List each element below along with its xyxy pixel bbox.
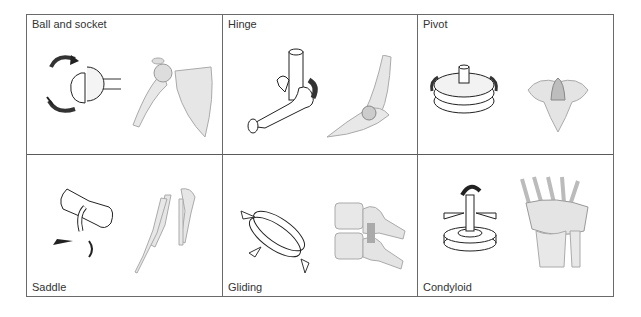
cell-pivot: Pivot: [418, 15, 613, 155]
joint-label: Ball and socket: [32, 18, 107, 30]
gliding-schematic-icon: [231, 195, 321, 275]
atlas-vertebra-anatomy-icon: [518, 60, 598, 140]
saddle-schematic-icon: [45, 185, 125, 265]
joint-label: Saddle: [32, 281, 66, 293]
vertebrae-anatomy-icon: [327, 195, 412, 280]
hand-bones-anatomy-icon: [123, 185, 213, 280]
cell-condyloid: Condyloid: [418, 155, 613, 296]
cell-hinge: Hinge: [223, 15, 418, 155]
joint-label: Hinge: [228, 18, 257, 30]
cell-saddle: Saddle: [27, 155, 223, 296]
ball-socket-schematic-icon: [41, 45, 121, 125]
condyloid-schematic-icon: [432, 177, 512, 257]
pivot-schematic-icon: [426, 53, 506, 123]
elbow-anatomy-icon: [323, 55, 413, 140]
joint-label: Pivot: [423, 18, 447, 30]
cell-ball-and-socket: Ball and socket: [27, 15, 223, 155]
joint-label: Gliding: [228, 281, 262, 293]
joint-label: Condyloid: [423, 281, 472, 293]
joint-types-grid: Ball and socket Hinge: [26, 14, 614, 297]
shoulder-anatomy-icon: [123, 55, 218, 145]
hinge-schematic-icon: [241, 40, 326, 135]
cell-gliding: Gliding: [223, 155, 418, 296]
wrist-anatomy-icon: [516, 173, 601, 268]
